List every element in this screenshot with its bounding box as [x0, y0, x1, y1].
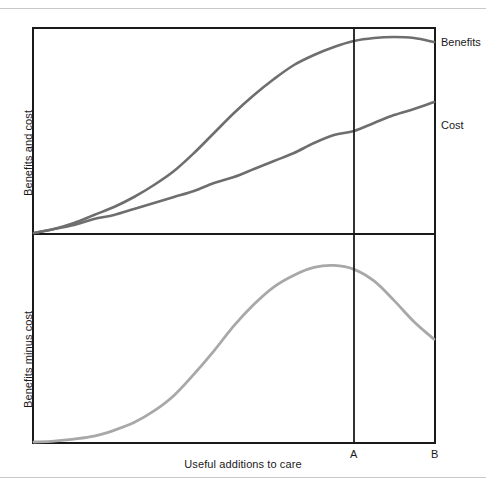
x-tick-label-a: A [350, 448, 357, 460]
figure: Benefits and cost Benefits minus cost Us… [0, 0, 486, 494]
bottom-panel-frame [33, 234, 435, 443]
series-label-benefits: Benefits [441, 36, 481, 48]
chart-canvas [0, 0, 486, 494]
top-panel-y-axis-label: Benefits and cost [22, 110, 34, 196]
bottom-panel-y-axis-label: Benefits minus cost [22, 311, 34, 408]
x-axis-label: Useful additions to care [0, 458, 486, 470]
top-panel-frame [33, 28, 435, 234]
series-label-cost: Cost [441, 119, 464, 131]
x-tick-label-b: B [431, 448, 438, 460]
